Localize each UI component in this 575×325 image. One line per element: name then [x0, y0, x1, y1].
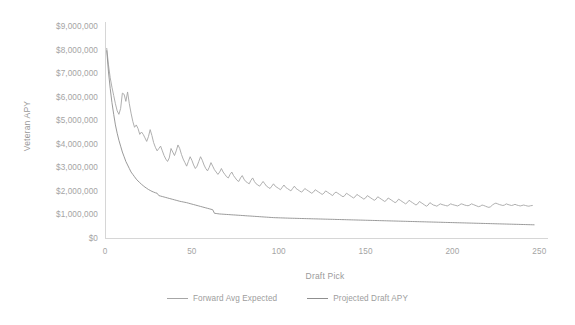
legend-entry[interactable]: Forward Avg Expected: [167, 294, 277, 303]
chart-container: Veteran APY Draft Pick $0$1,000,000$2,00…: [0, 0, 575, 325]
series-lines: [107, 48, 534, 224]
series-line: [107, 51, 534, 225]
series-line: [107, 48, 533, 207]
legend-swatch-icon: [167, 298, 188, 299]
legend-label: Projected Draft APY: [333, 294, 408, 303]
plot-area: [0, 0, 575, 325]
legend-entry[interactable]: Projected Draft APY: [307, 294, 408, 303]
chart-legend: Forward Avg ExpectedProjected Draft APY: [0, 294, 575, 303]
legend-swatch-icon: [307, 298, 328, 299]
legend-label: Forward Avg Expected: [193, 294, 277, 303]
